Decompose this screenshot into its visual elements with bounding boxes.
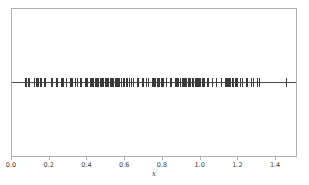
data-point-marker	[204, 78, 205, 87]
data-point-marker	[166, 78, 167, 87]
data-point-marker	[163, 78, 164, 87]
data-point-marker	[186, 78, 187, 87]
data-point-marker	[212, 78, 213, 87]
data-point-marker	[29, 78, 30, 87]
data-point-marker	[208, 78, 209, 87]
data-point-marker	[52, 78, 53, 87]
data-point-marker	[26, 78, 27, 87]
x-tick-line	[49, 157, 50, 160]
data-point-marker	[237, 78, 238, 87]
data-point-marker	[148, 78, 149, 87]
x-axis-label: x′	[0, 168, 309, 178]
data-point-marker	[193, 78, 194, 87]
data-point-marker	[159, 78, 160, 87]
data-point-marker	[259, 78, 260, 87]
data-point-marker	[133, 78, 134, 87]
data-point-marker	[143, 78, 144, 87]
data-point-marker	[124, 78, 125, 87]
x-tick-line	[200, 157, 201, 160]
data-point-marker	[41, 78, 42, 87]
data-point-marker	[200, 78, 201, 87]
data-point-marker	[247, 78, 248, 87]
data-point-marker	[253, 78, 254, 87]
data-point-marker	[45, 78, 46, 87]
data-point-marker	[98, 78, 99, 87]
data-point-marker	[221, 78, 222, 87]
figure-canvas: 0.00.20.40.60.81.01.21.4 x′	[0, 0, 309, 185]
data-point-marker	[57, 78, 58, 87]
plot-axes-frame	[11, 8, 297, 157]
x-tick-line	[86, 157, 87, 160]
data-point-marker	[81, 78, 82, 87]
data-point-marker	[242, 78, 243, 87]
data-point-marker	[66, 78, 67, 87]
data-point-marker	[77, 78, 78, 87]
x-axis-label-prime: ′	[156, 168, 157, 174]
x-tick-line	[124, 157, 125, 160]
data-point-marker	[87, 78, 88, 87]
data-point-marker	[233, 78, 234, 87]
data-point-marker	[72, 78, 73, 87]
data-point-marker	[63, 78, 64, 87]
data-point-marker	[138, 78, 139, 87]
x-tick-line	[11, 157, 12, 160]
x-tick-line	[275, 157, 276, 160]
data-point-marker	[171, 78, 172, 87]
data-point-marker	[119, 78, 120, 87]
data-point-marker	[216, 78, 217, 87]
x-tick-line	[237, 157, 238, 160]
data-point-marker	[178, 78, 179, 87]
data-point-marker	[129, 78, 130, 87]
x-tick-line	[162, 157, 163, 160]
data-point-marker	[286, 78, 287, 87]
